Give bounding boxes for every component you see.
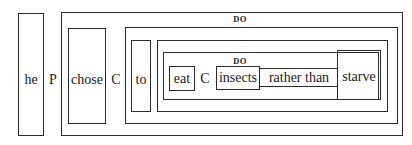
inner-verb-label: eat (174, 72, 190, 86)
verb-label: chose (71, 73, 103, 87)
object-label: insects (219, 71, 257, 85)
subject-label: he (24, 73, 37, 87)
infinitive-marker-label: to (136, 73, 147, 87)
outer-do-label: DO (233, 15, 246, 24)
complement-marker-inner: C (200, 72, 209, 86)
connector-label: rather than (269, 71, 329, 85)
inner-do-label: DO (233, 57, 246, 66)
predicate-marker: P (49, 73, 57, 87)
complement-marker-outer: C (111, 73, 120, 87)
alternative-label: starve (342, 70, 375, 84)
